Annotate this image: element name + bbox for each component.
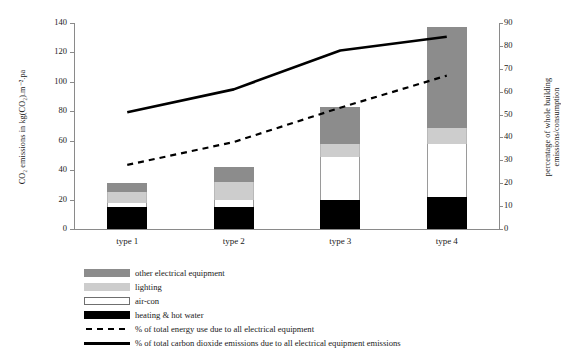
bar-segment-air-con[interactable]	[320, 157, 360, 200]
bar-segment-lighting[interactable]	[427, 128, 467, 144]
y-axis-right-tick-label: 30	[504, 155, 534, 164]
legend-swatch-icon	[84, 283, 130, 291]
y-axis-left-tick-label: 80	[37, 106, 67, 115]
y-axis-left-tick-label: 60	[37, 136, 67, 145]
x-axis-labels: type 1type 2type 3type 4	[74, 236, 500, 252]
legend-label: heating & hot water	[135, 311, 204, 320]
x-axis-label-type-1: type 1	[87, 236, 167, 246]
y-axis-right-tick-label: 90	[504, 18, 534, 27]
bar-segment-other[interactable]	[107, 183, 147, 192]
stacked-bars-group	[74, 23, 500, 230]
bar-type-1[interactable]	[107, 183, 147, 229]
y-axis-left-tick-label: 0	[37, 224, 67, 233]
bar-type-3[interactable]	[320, 107, 360, 229]
legend-label: % of total energy use due to all electri…	[135, 325, 314, 334]
bar-segment-lighting[interactable]	[107, 192, 147, 202]
x-axis-label-type-3: type 3	[300, 236, 380, 246]
legend-item-of-total-energy-use-due-to-all-electrical-eq[interactable]: % of total energy use due to all electri…	[84, 322, 534, 336]
bar-segment-air-con[interactable]	[214, 200, 254, 207]
y-axis-left-tick-label: 20	[37, 195, 67, 204]
bar-segment-lighting[interactable]	[214, 182, 254, 200]
y-axis-left-tick-label: 40	[37, 165, 67, 174]
y-axis-right-tick-label: 20	[504, 178, 534, 187]
x-axis-label-type-2: type 2	[194, 236, 274, 246]
y-axis-right-tick-label: 80	[504, 41, 534, 50]
plot-area: 020406080100120140 0102030405060708090 C…	[74, 23, 500, 230]
legend-dashed-line-icon	[84, 325, 130, 333]
legend-item-heating-hot-water[interactable]: heating & hot water	[84, 308, 534, 322]
legend-solid-line-icon	[84, 339, 130, 347]
bar-type-4[interactable]	[427, 27, 467, 229]
y-axis-left-tick-label: 100	[37, 77, 67, 86]
bar-segment-other[interactable]	[427, 27, 467, 127]
y-axis-right-tick-label: 10	[504, 201, 534, 210]
bar-segment-other[interactable]	[320, 107, 360, 144]
bar-segment-heating[interactable]	[320, 200, 360, 229]
bar-segment-other[interactable]	[214, 167, 254, 182]
legend-label: lighting	[135, 283, 162, 292]
bar-segment-heating[interactable]	[214, 207, 254, 229]
x-axis-label-type-4: type 4	[407, 236, 487, 246]
y-axis-right-tick-label: 50	[504, 110, 534, 119]
legend-label: % of total carbon dioxide emissions due …	[135, 339, 401, 348]
y-axis-right-tick-label: 0	[504, 224, 534, 233]
y-axis-right-tick-label: 40	[504, 132, 534, 141]
chart-legend: other electrical equipmentlightingair-co…	[84, 266, 534, 350]
y-axis-right-tick-label: 60	[504, 87, 534, 96]
legend-label: air-con	[135, 297, 159, 306]
legend-item-lighting[interactable]: lighting	[84, 280, 534, 294]
bar-segment-heating[interactable]	[107, 207, 147, 229]
legend-swatch-icon	[84, 311, 130, 319]
legend-item-air-con[interactable]: air-con	[84, 294, 534, 308]
y-axis-right-tick-label: 70	[504, 64, 534, 73]
legend-item-of-total-carbon-dioxide-emissions-due-to-all[interactable]: % of total carbon dioxide emissions due …	[84, 336, 534, 350]
y-axis-left-tick-label: 120	[37, 47, 67, 56]
bar-segment-heating[interactable]	[427, 197, 467, 229]
bar-segment-lighting[interactable]	[320, 144, 360, 157]
legend-item-other-electrical-equipment[interactable]: other electrical equipment	[84, 266, 534, 280]
bar-type-2[interactable]	[214, 167, 254, 229]
y-axis-left-tick-label: 140	[37, 18, 67, 27]
y-axis-left-title: CO₂ emissions in kg(CO₂).m⁻².pa	[17, 70, 27, 185]
legend-swatch-icon	[84, 269, 130, 277]
bar-segment-air-con[interactable]	[427, 144, 467, 197]
y-axis-right-title: percentage of whole building emissions/c…	[543, 67, 561, 187]
legend-swatch-icon	[84, 297, 130, 305]
legend-label: other electrical equipment	[135, 269, 225, 278]
